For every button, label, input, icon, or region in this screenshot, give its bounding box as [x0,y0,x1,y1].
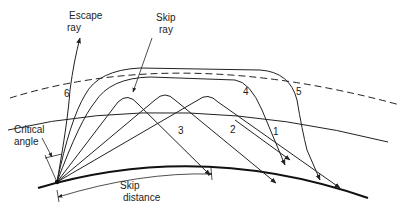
skip-ray-label-line2: ray [159,24,173,35]
escape-ray-label-line2: ray [67,22,81,33]
ray-number-1: 1 [273,126,279,137]
ray-6-escape [57,38,80,182]
ray-5 [57,68,320,182]
ray-number-2: 2 [230,124,236,135]
ray-number-5: 5 [296,86,302,97]
critical-angle-label-line1: Critical [14,124,45,135]
skip-distance-tick-left [57,190,59,202]
ionosphere-lower-layer [8,113,388,142]
critical-angle-label-line2: angle [14,136,39,147]
escape-ray-label-line1: Escape [69,10,103,21]
ray-2-continuation [235,120,290,160]
skip-ray-label-line1: Skip [156,12,176,23]
skip-distance-tick-right [211,168,212,180]
skip-ray-pointer [133,38,152,92]
critical-angle-normal [45,155,57,182]
transmitter-point [55,180,59,184]
skywave-diagram: Escape ray Skip ray Critical angle Skip … [0,0,409,208]
skip-distance-label-line2: distance [123,192,161,203]
ray-number-3: 3 [178,125,184,136]
critical-angle-pointer [42,138,52,157]
skip-distance-label-line1: Skip [120,180,140,191]
earth-surface [38,166,368,198]
ray-number-6: 6 [64,88,70,99]
ray-number-4: 4 [243,86,249,97]
critical-angle-bracket [45,154,62,158]
